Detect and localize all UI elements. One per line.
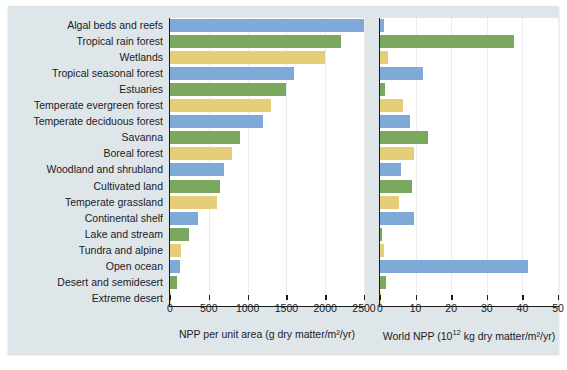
axis-label-exponent: 12	[452, 328, 460, 337]
category-label: Boreal forest	[103, 145, 163, 162]
axis-tick	[558, 295, 559, 300]
bar	[380, 131, 428, 144]
axis-tick	[416, 295, 417, 300]
gridline	[325, 18, 326, 306]
category-label: Tropical rain forest	[76, 33, 163, 50]
x-axis-label-left: NPP per unit area (g dry matter/m²/yr)	[169, 328, 365, 340]
axis-tick-label: 50	[552, 302, 564, 314]
gridline	[364, 18, 365, 306]
bar	[380, 180, 412, 193]
bar	[380, 228, 382, 241]
category-label: Woodland and shrubland	[46, 161, 163, 178]
panel-npp-per-unit-area	[169, 18, 365, 307]
bar	[380, 147, 414, 160]
bar	[170, 228, 189, 241]
gridline	[558, 18, 559, 306]
axis-tick	[286, 295, 287, 300]
axis-tick	[451, 295, 452, 300]
axis-tick	[325, 295, 326, 300]
bar	[170, 212, 198, 225]
axis-tick-label: 2000	[314, 302, 337, 314]
bar	[170, 260, 180, 273]
plot-area-left	[170, 18, 365, 306]
chart-figure: Algal beds and reefsTropical rain forest…	[8, 6, 559, 354]
category-label: Extreme desert	[92, 290, 163, 307]
category-label: Wetlands	[119, 49, 163, 66]
bar	[170, 83, 286, 96]
category-label: Lake and stream	[85, 226, 163, 243]
bar	[380, 99, 403, 112]
bar	[380, 67, 423, 80]
axis-label-text: NPP per unit area (g dry matter/m²/yr)	[179, 328, 355, 340]
axis-tick	[380, 295, 381, 300]
axis-tick-label: 30	[481, 302, 493, 314]
category-label: Tropical seasonal forest	[52, 65, 163, 82]
category-label: Continental shelf	[85, 210, 163, 227]
category-label: Estuaries	[119, 81, 163, 98]
bar	[170, 99, 271, 112]
bar	[380, 276, 386, 289]
bar	[170, 276, 177, 289]
plot-area-right	[380, 18, 559, 306]
axis-tick	[170, 295, 171, 300]
axis-tick	[209, 295, 210, 300]
bar	[170, 19, 364, 32]
axis-tick-label: 0	[377, 302, 383, 314]
bar	[380, 83, 385, 96]
bar	[380, 35, 514, 48]
axis-label-prefix: World NPP (10	[383, 330, 453, 342]
axis-tick	[487, 295, 488, 300]
axis-tick-label: 10	[410, 302, 422, 314]
axis-tick-label: 500	[200, 302, 218, 314]
bar	[170, 51, 325, 64]
bar	[170, 35, 341, 48]
axis-tick-label: 1000	[236, 302, 259, 314]
category-label: Tundra and alpine	[79, 242, 163, 259]
category-label: Temperate deciduous forest	[33, 113, 163, 130]
axis-tick	[248, 295, 249, 300]
bar	[170, 147, 232, 160]
category-label-column: Algal beds and reefsTropical rain forest…	[8, 18, 169, 307]
bar	[380, 244, 384, 257]
axis-tick-label: 0	[167, 302, 173, 314]
bar	[380, 19, 384, 32]
bar	[170, 180, 220, 193]
bar	[170, 67, 294, 80]
category-label: Desert and semidesert	[57, 274, 163, 291]
category-label: Algal beds and reefs	[67, 17, 163, 34]
axis-label-suffix: kg dry matter/m²/yr)	[461, 330, 556, 342]
bar	[170, 163, 224, 176]
axis-tick-label: 20	[445, 302, 457, 314]
bar	[380, 260, 528, 273]
x-axis-label-right: World NPP (1012 kg dry matter/m²/yr)	[371, 328, 567, 342]
bar	[170, 115, 263, 128]
category-label: Cultivated land	[94, 178, 163, 195]
bar	[170, 244, 181, 257]
bar	[380, 163, 401, 176]
category-label: Savanna	[122, 129, 163, 146]
axis-tick	[522, 295, 523, 300]
category-label: Open ocean	[106, 258, 163, 275]
bar	[380, 51, 388, 64]
axis-tick-label: 1500	[275, 302, 298, 314]
bar	[170, 196, 217, 209]
category-label: Temperate grassland	[65, 194, 163, 211]
bar	[380, 115, 410, 128]
bar	[380, 212, 414, 225]
bar	[170, 131, 240, 144]
panel-world-npp	[379, 18, 559, 307]
bar	[380, 196, 399, 209]
category-label: Temperate evergreen forest	[34, 97, 163, 114]
axis-tick-label: 40	[517, 302, 529, 314]
axis-tick	[364, 295, 365, 300]
axis-tick-label: 2500	[352, 302, 375, 314]
